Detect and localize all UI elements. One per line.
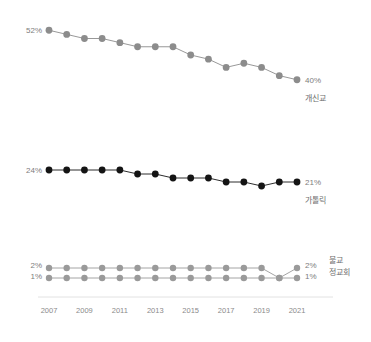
orthodox-point: [170, 275, 176, 281]
orthodox-point: [46, 275, 52, 281]
protestant-point: [81, 35, 88, 42]
catholic-start-label: 24%: [26, 166, 42, 175]
x-axis-tick-2015: 2015: [182, 306, 199, 315]
catholic-point: [187, 175, 194, 182]
catholic-point: [240, 179, 247, 186]
x-axis-tick-2011: 2011: [112, 306, 128, 315]
buddhism-point: [99, 265, 105, 271]
protestant-point: [152, 43, 159, 50]
protestant-point: [63, 31, 70, 38]
orthodox-end-label: 1%: [305, 272, 317, 281]
orthodox-point: [99, 275, 105, 281]
catholic-point: [223, 179, 230, 186]
protestant-point: [205, 56, 212, 63]
protestant-start-label: 52%: [26, 26, 42, 35]
catholic-point: [116, 167, 123, 174]
orthodox-start-label: 1%: [30, 272, 42, 281]
buddhism-point: [205, 265, 211, 271]
catholic-series-label: 가톨릭: [305, 195, 326, 205]
buddhism-series-label: 불교: [329, 255, 343, 265]
catholic-point: [63, 167, 70, 174]
x-axis-tick-2019: 2019: [253, 306, 270, 315]
protestant-point: [46, 27, 53, 34]
catholic-point: [205, 175, 212, 182]
protestant-point: [276, 72, 283, 79]
buddhism-point: [188, 265, 194, 271]
catholic-point: [46, 167, 53, 174]
catholic-point: [294, 179, 301, 186]
catholic-point: [81, 167, 88, 174]
buddhism-point: [117, 265, 123, 271]
chart-canvas: 52%40%개신교 24%21%가톨릭 2%1%2%1%불교정교회 200720…: [0, 0, 371, 342]
protestant-point: [116, 39, 123, 46]
buddhism-point: [170, 265, 176, 271]
x-axis-tick-2009: 2009: [76, 306, 93, 315]
orthodox-series-label: 정교회: [329, 267, 350, 277]
orthodox-point: [223, 275, 229, 281]
orthodox-point: [64, 275, 70, 281]
protestant-point: [223, 64, 230, 71]
protestant-point: [170, 43, 177, 50]
protestant-point: [99, 35, 106, 42]
x-axis-tick-2013: 2013: [147, 306, 164, 315]
x-axis-tick-2021: 2021: [289, 306, 306, 315]
religion-trend-chart: 52%40%개신교 24%21%가톨릭 2%1%2%1%불교정교회 200720…: [0, 0, 371, 342]
buddhism-point: [46, 265, 52, 271]
catholic-point: [152, 171, 159, 178]
protestant-series-label: 개신교: [305, 93, 326, 103]
orthodox-point: [188, 275, 194, 281]
orthodox-point: [81, 275, 87, 281]
buddhism-point: [81, 265, 87, 271]
protestant-point: [134, 43, 141, 50]
orthodox-point: [134, 275, 140, 281]
catholic-point: [99, 167, 106, 174]
orthodox-point: [117, 275, 123, 281]
catholic-point: [170, 175, 177, 182]
orthodox-point: [205, 275, 211, 281]
buddhism-point: [258, 265, 264, 271]
buddhism-point: [294, 265, 300, 271]
panel-protestant: 52%40%개신교: [26, 26, 326, 103]
buddhism-end-label: 2%: [305, 261, 317, 270]
buddhism-point: [152, 265, 158, 271]
protestant-point: [294, 76, 301, 83]
orthodox-point: [276, 275, 282, 281]
orthodox-point: [294, 275, 300, 281]
protestant-point: [240, 60, 247, 67]
orthodox-point: [152, 275, 158, 281]
buddhism-start-label: 2%: [30, 261, 42, 270]
catholic-point: [134, 171, 141, 178]
catholic-point: [258, 183, 265, 190]
protestant-end-label: 40%: [305, 76, 321, 85]
panel-catholic: 24%21%가톨릭: [26, 166, 326, 205]
catholic-point: [276, 179, 283, 186]
buddhism-point: [241, 265, 247, 271]
protestant-point: [258, 64, 265, 71]
panel-buddhism-orthodox: 2%1%2%1%불교정교회: [30, 255, 350, 281]
orthodox-point: [241, 275, 247, 281]
buddhism-point: [134, 265, 140, 271]
orthodox-point: [258, 275, 264, 281]
x-axis-tick-2017: 2017: [218, 306, 235, 315]
protestant-point: [187, 52, 194, 59]
catholic-end-label: 21%: [305, 178, 321, 187]
buddhism-point: [64, 265, 70, 271]
x-axis-tick-2007: 2007: [41, 306, 58, 315]
x-axis: 20072009201120132015201720192021: [38, 297, 333, 315]
buddhism-point: [223, 265, 229, 271]
